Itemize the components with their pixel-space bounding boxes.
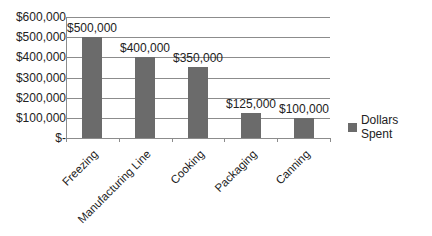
legend: Dollars Spent — [348, 113, 432, 141]
bar — [241, 113, 261, 138]
data-label: $100,000 — [279, 103, 329, 115]
y-tick-label: $300,000 — [16, 72, 66, 84]
x-tick-mark — [277, 138, 278, 142]
x-tick-mark — [172, 138, 173, 142]
legend-label: Dollars Spent — [361, 113, 432, 141]
y-tick-label: $600,000 — [16, 11, 66, 23]
x-tick-mark — [66, 138, 67, 142]
x-tick-label: Cooking — [168, 148, 206, 186]
data-label: $125,000 — [226, 98, 276, 110]
y-tick-label: $100,000 — [16, 112, 66, 124]
gridline — [66, 17, 330, 18]
y-tick-label: $500,000 — [16, 31, 66, 43]
y-axis-line — [66, 17, 67, 138]
data-label: $350,000 — [173, 52, 223, 64]
y-tick-label: $400,000 — [16, 51, 66, 63]
y-tick-label: $200,000 — [16, 92, 66, 104]
data-label: $400,000 — [120, 42, 170, 54]
bar — [82, 37, 102, 138]
bar — [188, 67, 208, 138]
bar — [135, 57, 155, 138]
x-tick-label: Freezing — [60, 148, 100, 188]
y-tick-label: $- — [55, 132, 66, 144]
data-label: $500,000 — [67, 22, 117, 34]
x-tick-label: Canning — [273, 148, 312, 187]
gridline — [66, 37, 330, 38]
gridline — [66, 138, 330, 139]
bar — [294, 118, 314, 138]
x-tick-label: Packaging — [212, 148, 258, 194]
x-tick-mark — [119, 138, 120, 142]
x-tick-mark — [224, 138, 225, 142]
x-tick-mark — [330, 138, 331, 142]
legend-swatch-icon — [348, 123, 357, 132]
